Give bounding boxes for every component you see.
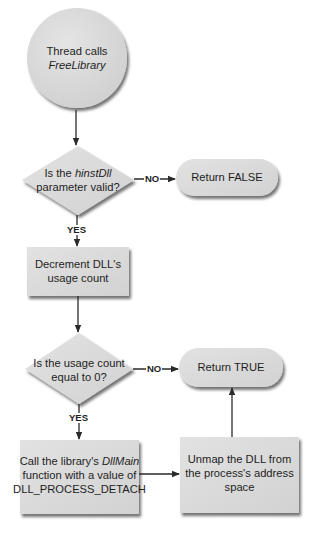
start-line1: Thread calls <box>47 44 108 58</box>
unmap-text: Unmap the DLL from the process's address… <box>180 450 299 496</box>
edge-label-no-1: NO <box>144 174 160 184</box>
decision1-line1: Is the hinstDll <box>44 166 111 180</box>
start-line2: FreeLibrary <box>48 58 105 72</box>
decision2-text: Is the usage count equal to 0? <box>28 353 130 387</box>
decision1-text: Is the hinstDll parameter valid? <box>30 163 126 197</box>
decision1-line2: parameter valid? <box>36 180 119 194</box>
edge-label-yes-1: YES <box>66 225 87 235</box>
call-dllmain-text: Call the library's DllMain function with… <box>20 452 139 498</box>
return-false-text: Return FALSE <box>176 159 278 194</box>
call-dllmain-line1: Call the library's DllMain <box>20 454 140 468</box>
edge-label-no-2: NO <box>146 364 162 374</box>
decrement-text: Decrement DLL's usage count <box>27 253 129 289</box>
start-node-text: Thread calls FreeLibrary <box>30 40 124 76</box>
edge-label-yes-2: YES <box>68 413 89 423</box>
return-true-text: Return TRUE <box>179 348 283 385</box>
